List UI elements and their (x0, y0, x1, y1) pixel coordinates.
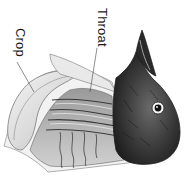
crop-label: Crop (13, 28, 28, 57)
eye-pupil (155, 105, 162, 112)
eye-glint (156, 106, 158, 108)
throat-label: Throat (95, 8, 110, 47)
